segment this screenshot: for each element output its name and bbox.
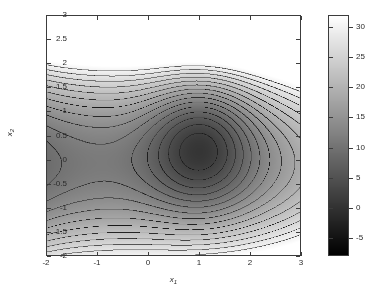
y-tick-mark-right: [296, 184, 300, 185]
x-tick-mark: [97, 252, 98, 256]
x-tick-mark-top: [250, 16, 251, 20]
colorbar-tick-mark-left: [329, 117, 333, 118]
y-tick-mark: [47, 63, 51, 64]
y-tick-mark-right: [296, 87, 300, 88]
colorbar-tick-mark-left: [329, 208, 333, 209]
y-tick-mark-right: [296, 208, 300, 209]
x-tick-mark: [199, 252, 200, 256]
contour-plot-area: [46, 15, 301, 256]
y-tick-mark: [47, 256, 51, 257]
x-tick-mark: [250, 252, 251, 256]
y-tick-mark-right: [296, 232, 300, 233]
x-tick-label: 0: [133, 259, 163, 267]
colorbar-tick-label: 15: [356, 113, 365, 121]
colorbar-tick-mark: [349, 87, 353, 88]
colorbar-tick-label: 0: [356, 204, 360, 212]
x-tick-mark-top: [148, 16, 149, 20]
colorbar-tick-mark: [349, 117, 353, 118]
colorbar-tick-label: 10: [356, 144, 365, 152]
x-tick-mark: [148, 252, 149, 256]
x-tick-label: 2: [235, 259, 265, 267]
y-tick-mark-right: [296, 160, 300, 161]
colorbar-tick-mark: [349, 208, 353, 209]
colorbar-tick-mark: [349, 178, 353, 179]
y-tick-mark-right: [296, 39, 300, 40]
colorbar-tick-label: 25: [356, 53, 365, 61]
y-axis-label: x2: [5, 110, 14, 156]
y-tick-mark-right: [296, 111, 300, 112]
y-tick-mark-right: [296, 256, 300, 257]
y-tick-mark: [47, 208, 51, 209]
x-tick-mark: [46, 252, 47, 256]
x-tick-label: -2: [31, 259, 61, 267]
y-axis-label-sub: 2: [9, 129, 15, 132]
colorbar-tick-mark-left: [329, 27, 333, 28]
x-tick-label: -1: [82, 259, 112, 267]
y-tick-mark: [47, 15, 51, 16]
colorbar-tick-label: 5: [356, 174, 360, 182]
colorbar-tick-label: -5: [356, 234, 363, 242]
y-tick-mark-right: [296, 15, 300, 16]
colorbar-tick-mark-left: [329, 148, 333, 149]
colorbar-tick-mark-left: [329, 57, 333, 58]
y-tick-mark: [47, 184, 51, 185]
colorbar-tick-mark-left: [329, 87, 333, 88]
colorbar-tick-mark-left: [329, 238, 333, 239]
y-tick-mark: [47, 232, 51, 233]
colorbar-gradient: [329, 16, 348, 255]
x-tick-label: 3: [286, 259, 316, 267]
colorbar-tick-mark: [349, 27, 353, 28]
colorbar: [328, 15, 349, 256]
x-tick-mark-top: [301, 16, 302, 20]
y-tick-mark-right: [296, 63, 300, 64]
colorbar-tick-mark-left: [329, 178, 333, 179]
x-tick-mark: [301, 252, 302, 256]
colorbar-tick-label: 20: [356, 83, 365, 91]
y-tick-mark: [47, 39, 51, 40]
colorbar-tick-mark: [349, 57, 353, 58]
y-tick-mark: [47, 87, 51, 88]
y-tick-mark: [47, 160, 51, 161]
x-axis-label-sub: 1: [174, 279, 177, 285]
x-tick-mark-top: [97, 16, 98, 20]
y-tick-mark: [47, 111, 51, 112]
colorbar-tick-mark: [349, 238, 353, 239]
x-tick-mark-top: [199, 16, 200, 20]
colorbar-tick-mark: [349, 148, 353, 149]
y-tick-mark: [47, 136, 51, 137]
y-tick-mark-right: [296, 136, 300, 137]
y-axis-label-main: x: [5, 132, 14, 136]
contour-field: [47, 16, 300, 255]
figure-canvas: -2-1.5-1-0.500.511.522.53 -2-10123 x1 x2…: [0, 0, 374, 301]
x-tick-label: 1: [184, 259, 214, 267]
x-axis-label: x1: [46, 275, 301, 284]
colorbar-tick-label: 30: [356, 23, 365, 31]
x-tick-mark-top: [46, 16, 47, 20]
